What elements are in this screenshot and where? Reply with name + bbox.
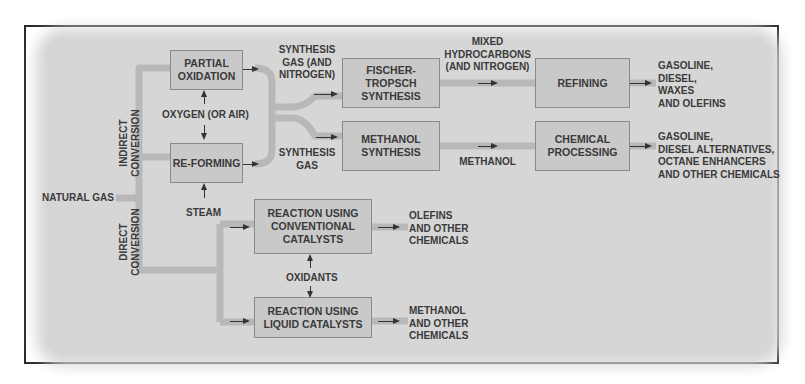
- arrow-right-icon: [478, 83, 496, 84]
- arrow-right-icon: [630, 83, 650, 84]
- oxidants-label: OXIDANTS: [286, 272, 338, 285]
- arrow-right-icon: [378, 321, 398, 322]
- reaction-conventional-catalysts-box: REACTION USINGCONVENTIONALCATALYSTS: [254, 199, 372, 254]
- chemical-processing-box: CHEMICALPROCESSING: [535, 121, 630, 171]
- syngas-label: SYNTHESIS GAS: [277, 147, 337, 172]
- arrow-right-icon: [243, 69, 257, 70]
- arrow-right-icon: [230, 227, 248, 228]
- reaction-liquid-catalysts-box: REACTION USINGLIQUID CATALYSTS: [254, 297, 372, 338]
- arrow-right-icon: [478, 146, 496, 147]
- arrow-right-icon: [314, 94, 336, 95]
- methanol-flow-label: METHANOL: [440, 156, 535, 169]
- oxygen-label: OXYGEN (OR AIR): [162, 109, 249, 122]
- reforming-box: RE-FORMING: [170, 143, 243, 183]
- arrow-right-icon: [316, 137, 336, 138]
- conventional-outputs: OLEFINS AND OTHER CHEMICALS: [409, 210, 468, 248]
- partial-oxidation-box: PARTIALOXIDATION: [170, 50, 243, 90]
- arrow-down-icon: [204, 125, 205, 137]
- arrow-up-icon: [204, 186, 205, 198]
- arrow-right-icon: [630, 146, 650, 147]
- mixed-hydrocarbons-label: MIXED HYDROCARBONS (AND NITROGEN): [440, 36, 535, 74]
- direct-conversion-label: DIRECTCONVERSION: [118, 202, 142, 282]
- arrow-down-icon: [310, 286, 311, 295]
- arrow-up-icon: [204, 93, 205, 104]
- indirect-conversion-label: INDIRECTCONVERSION: [118, 103, 142, 183]
- refining-box: REFINING: [535, 58, 630, 108]
- syngas-nitrogen-label: SYNTHESIS GAS (AND NITROGEN): [277, 44, 337, 82]
- arrow-right-icon: [378, 227, 398, 228]
- fischer-tropsch-box: FISCHER-TROPSCHSYNTHESIS: [342, 58, 440, 108]
- chemical-outputs: GASOLINE, DIESEL ALTERNATIVES, OCTANE EN…: [658, 131, 780, 181]
- liquid-outputs: METHANOL AND OTHER CHEMICALS: [409, 305, 468, 343]
- refining-outputs: GASOLINE, DIESEL, WAXES AND OLEFINS: [658, 60, 726, 110]
- arrow-right-icon: [230, 321, 248, 322]
- methanol-synthesis-box: METHANOLSYNTHESIS: [342, 121, 440, 171]
- arrow-right-icon: [243, 164, 257, 165]
- natural-gas-label: NATURAL GAS: [42, 192, 114, 205]
- steam-label: STEAM: [186, 207, 221, 220]
- arrow-up-icon: [310, 257, 311, 268]
